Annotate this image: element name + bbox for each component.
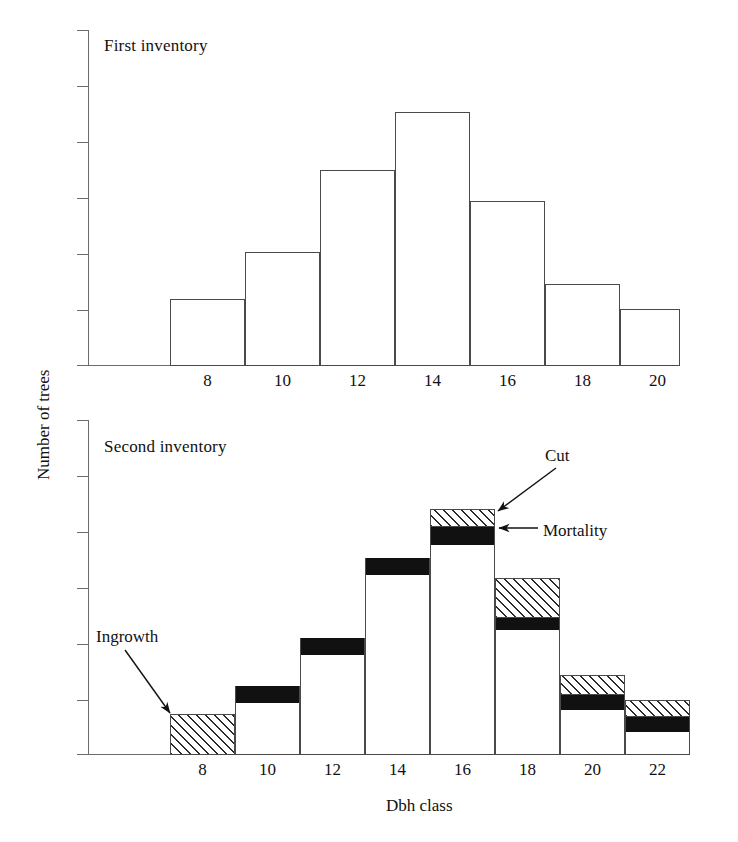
x-tick-label-first: 20 — [620, 371, 695, 391]
x-tick-label-second: 10 — [235, 760, 300, 780]
x-axis-title: Dbh class — [386, 796, 453, 816]
bar-first-16 — [470, 201, 545, 366]
x-tick-label-second: 22 — [625, 760, 690, 780]
segment-mortality — [366, 558, 429, 575]
x-tick-label-first: 8 — [170, 371, 245, 391]
arrow-ingrowth-icon — [125, 650, 170, 713]
panel-title-first: First inventory — [104, 36, 208, 56]
y-tick-second — [77, 588, 88, 589]
segment-mortality — [431, 527, 494, 545]
y-tick-first — [77, 86, 88, 87]
y-tick-first — [77, 30, 88, 31]
figure: Number of trees First inventory 8 10 12 … — [0, 0, 738, 842]
y-tick-second — [77, 420, 88, 421]
y-axis-title: Number of trees — [34, 370, 54, 480]
bar-first-20 — [620, 309, 680, 366]
bar-first-14 — [395, 112, 470, 366]
annotation-cut-label: Cut — [545, 446, 570, 466]
segment-cut — [430, 509, 495, 527]
bar-first-8 — [170, 299, 245, 366]
y-tick-second — [77, 700, 88, 701]
bar-second-16 — [430, 509, 495, 755]
x-tick-label-second: 12 — [300, 760, 365, 780]
x-tick-label-first: 14 — [395, 371, 470, 391]
bar-second-18 — [495, 578, 560, 755]
y-tick-second — [77, 476, 88, 477]
y-tick-first — [77, 142, 88, 143]
bar-second-14 — [365, 558, 430, 755]
panel-title-second: Second inventory — [104, 437, 227, 457]
y-tick-second — [77, 532, 88, 533]
segment-mortality — [626, 717, 689, 732]
bar-second-12 — [300, 638, 365, 755]
x-tick-label-first: 10 — [245, 371, 320, 391]
x-tick-label-second: 20 — [560, 760, 625, 780]
segment-cut — [560, 675, 625, 695]
bar-second-20 — [560, 675, 625, 755]
y-tick-second — [77, 644, 88, 645]
y-axis-line-first — [88, 30, 89, 366]
segment-mortality — [236, 686, 299, 703]
bar-second-10 — [235, 686, 300, 755]
annotation-ingrowth-label: Ingrowth — [96, 627, 158, 647]
y-tick-first — [77, 254, 88, 255]
segment-mortality — [301, 638, 364, 655]
x-tick-label-first: 16 — [470, 371, 545, 391]
x-tick-label-second: 18 — [495, 760, 560, 780]
y-axis-line-second — [88, 420, 89, 755]
segment-mortality — [496, 618, 559, 630]
x-tick-label-second: 16 — [430, 760, 495, 780]
bar-first-10 — [245, 252, 320, 366]
x-tick-label-second: 14 — [365, 760, 430, 780]
x-tick-label-first: 12 — [320, 371, 395, 391]
x-tick-label-first: 18 — [545, 371, 620, 391]
segment-ingrowth — [170, 714, 235, 755]
x-tick-label-second: 8 — [170, 760, 235, 780]
bar-second-8 — [170, 714, 235, 755]
annotation-mortality-label: Mortality — [543, 521, 607, 541]
y-tick-second — [77, 754, 88, 755]
bar-first-18 — [545, 284, 620, 366]
bar-second-22 — [625, 700, 690, 755]
y-tick-first — [77, 310, 88, 311]
segment-cut — [625, 700, 690, 717]
segment-cut — [495, 578, 560, 618]
y-tick-first — [77, 198, 88, 199]
arrow-cut-icon — [498, 468, 556, 511]
y-tick-first — [77, 365, 88, 366]
segment-mortality — [561, 695, 624, 710]
bar-first-12 — [320, 170, 395, 366]
